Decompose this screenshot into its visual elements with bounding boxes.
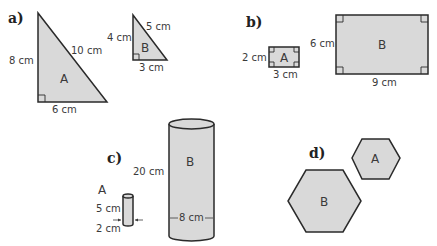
hexagon-a-name: A [371, 152, 380, 166]
hexagon-b-name: B [320, 195, 328, 209]
rectangle-a-name: A [280, 51, 289, 65]
diagram-canvas: a) A 8 cm 10 cm 6 cm B 4 cm 5 cm 3 cm b)… [0, 0, 437, 246]
triangle-a-base: 6 cm [52, 104, 77, 115]
similar-shapes-diagram: a) A 8 cm 10 cm 6 cm B 4 cm 5 cm 3 cm b)… [0, 0, 437, 246]
triangle-a [38, 13, 107, 102]
rectangle-a-width: 3 cm [273, 69, 298, 80]
part-c-label: c) [107, 150, 122, 166]
part-d: d) A B [288, 139, 400, 232]
triangle-a-hypotenuse: 10 cm [71, 45, 102, 56]
cylinder-a-name: A [98, 183, 107, 197]
part-b: b) A 2 cm 3 cm B 6 cm 9 cm [242, 14, 428, 88]
rectangle-b-width: 9 cm [372, 77, 397, 88]
part-a-label: a) [8, 10, 24, 26]
rectangle-a-height: 2 cm [242, 52, 267, 63]
cylinder-a-diameter: 2 cm [96, 223, 121, 234]
triangle-b-name: B [141, 41, 149, 55]
part-b-label: b) [246, 14, 262, 30]
triangle-a-name: A [60, 72, 69, 86]
arrowhead [118, 219, 121, 222]
cylinder-b-name: B [186, 155, 194, 169]
part-c: c) B 20 cm 8 cm A 5 cm 2 cm [96, 119, 214, 241]
triangle-b-base: 3 cm [139, 62, 164, 73]
triangle-a-height: 8 cm [9, 55, 34, 66]
cylinder-b-diameter: 8 cm [179, 212, 204, 223]
triangle-b-height: 4 cm [107, 32, 132, 43]
rectangle-b-name: B [378, 38, 386, 52]
part-d-label: d) [309, 145, 325, 161]
rectangle-b-height: 6 cm [310, 38, 335, 49]
cylinder-a-height: 5 cm [96, 203, 121, 214]
arrowhead [135, 219, 138, 222]
part-a: a) A 8 cm 10 cm 6 cm B 4 cm 5 cm 3 cm [8, 10, 171, 115]
cylinder-a [123, 194, 133, 226]
cylinder-b-height: 20 cm [133, 166, 164, 177]
triangle-b-hypotenuse: 5 cm [146, 21, 171, 32]
